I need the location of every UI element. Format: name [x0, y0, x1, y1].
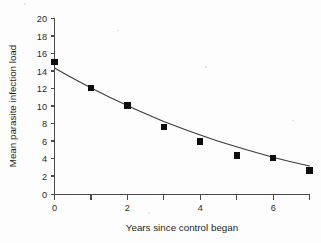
y-tick-label: 16: [37, 49, 47, 59]
x-axis-title: Years since control began: [126, 222, 238, 233]
data-point: [197, 138, 203, 144]
x-tick-label: 2: [125, 203, 130, 213]
y-tick-label: 2: [42, 172, 47, 182]
x-axis-ticks: [55, 195, 310, 200]
x-tick-label: 6: [271, 203, 276, 213]
fitted-curve: [55, 68, 310, 166]
y-axis-ticks: [51, 19, 55, 195]
data-point: [124, 102, 130, 108]
y-tick-label: 6: [42, 137, 47, 147]
y-tick-label: 20: [37, 14, 47, 24]
data-point: [306, 167, 312, 173]
y-axis-title: Mean parasite infection load: [7, 45, 18, 168]
y-tick-label: 14: [37, 67, 47, 77]
data-point: [234, 152, 240, 158]
chart-plot-area: 20 18 16 14 12 10 8 6 4 2 0 0 2 4 6: [0, 0, 321, 243]
data-point: [270, 155, 276, 161]
y-tick-label: 12: [37, 84, 47, 94]
data-point: [88, 85, 94, 91]
data-point: [51, 59, 57, 65]
x-tick-label: 4: [198, 203, 203, 213]
y-tick-label: 8: [42, 119, 47, 129]
chart-figure: 20 18 16 14 12 10 8 6 4 2 0 0 2 4 6: [0, 0, 321, 243]
x-tick-label: 0: [52, 203, 57, 213]
data-point: [161, 124, 167, 130]
y-tick-label: 10: [37, 102, 47, 112]
y-tick-label: 18: [37, 32, 47, 42]
y-tick-label: 0: [42, 190, 47, 200]
y-tick-label: 4: [42, 154, 47, 164]
